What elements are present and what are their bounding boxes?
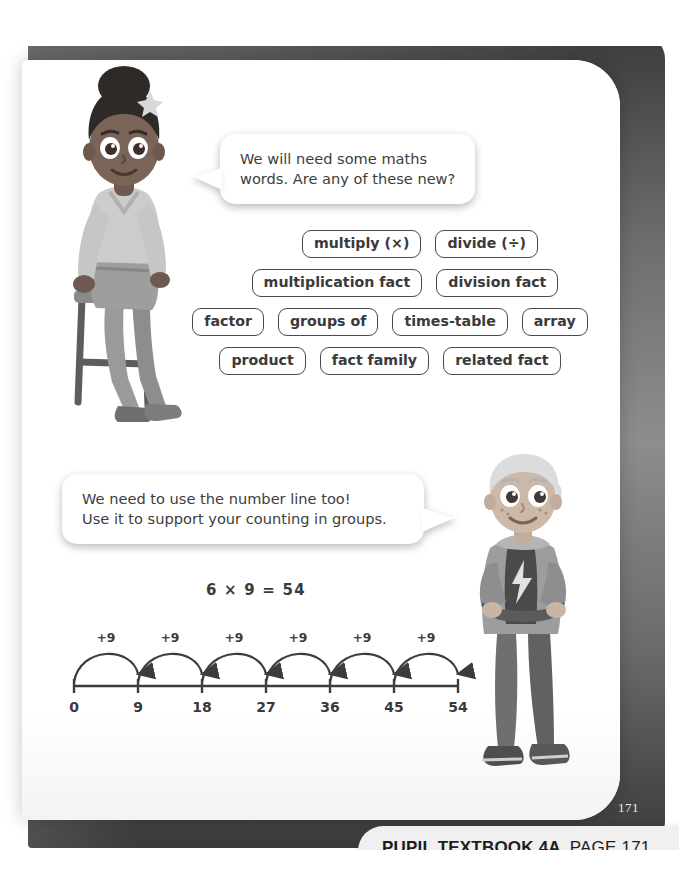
number-line-jump-arc <box>138 654 202 682</box>
vocab-chip-division-fact[interactable]: division fact <box>436 269 558 297</box>
number-line-jump-arc <box>394 654 458 682</box>
speech-bubble-tail-right <box>422 508 454 532</box>
number-line-jump-label: +9 <box>224 630 243 645</box>
vocab-chip-times-table[interactable]: times-table <box>392 308 507 336</box>
number-line-jump-arc <box>74 654 138 682</box>
vocab-chip-related-fact[interactable]: related fact <box>443 347 561 375</box>
number-line-tick-label: 9 <box>133 699 143 715</box>
vocabulary-row-2: multiplication fact division fact <box>180 269 600 297</box>
vocab-chip-groups-of[interactable]: groups of <box>278 308 378 336</box>
boy-standing-illustration <box>462 452 592 792</box>
multiplication-equation: 6 × 9 = 54 <box>206 581 306 599</box>
vocab-chip-multiplication-fact[interactable]: multiplication fact <box>252 269 423 297</box>
number-line-jump-arcs <box>74 654 458 682</box>
number-line-diagram: +9+9+9+9+9+9 091827364554 <box>56 618 476 718</box>
number-line-jump-labels: +9+9+9+9+9+9 <box>96 630 435 645</box>
number-line-jump-label: +9 <box>352 630 371 645</box>
vocabulary-row-1: multiply (×) divide (÷) <box>180 230 600 258</box>
vocabulary-row-3: factor groups of times-table array <box>180 308 600 336</box>
number-line-jump-arc <box>202 654 266 682</box>
vocab-chip-fact-family[interactable]: fact family <box>320 347 429 375</box>
number-line-jump-label: +9 <box>96 630 115 645</box>
number-line-tick-label: 45 <box>384 699 403 715</box>
speech-bubble-tail-left <box>194 168 222 190</box>
number-line-jump-label: +9 <box>288 630 307 645</box>
number-line-jump-arc <box>266 654 330 682</box>
number-line-jump-label: +9 <box>416 630 435 645</box>
girl-speech-bubble: We will need some maths words. Are any o… <box>220 134 475 204</box>
bottom-margin <box>0 850 679 890</box>
number-line-tick-label: 18 <box>192 699 211 715</box>
number-line-tick-labels: 091827364554 <box>69 699 468 715</box>
number-line-tick-label: 36 <box>320 699 339 715</box>
vocab-chip-divide[interactable]: divide (÷) <box>435 230 538 258</box>
number-line-jump-arc <box>330 654 394 682</box>
top-margin <box>0 0 679 46</box>
number-line-tick-label: 54 <box>448 699 468 715</box>
vocab-chip-array[interactable]: array <box>522 308 588 336</box>
number-line-tick-label: 0 <box>69 699 79 715</box>
girl-speech-text: We will need some maths words. Are any o… <box>220 134 475 204</box>
page-number-corner: 171 <box>618 800 639 816</box>
number-line-jump-label: +9 <box>160 630 179 645</box>
number-line-tick-label: 27 <box>256 699 275 715</box>
vocabulary-row-4: product fact family related fact <box>180 347 600 375</box>
boy-speech-text: We need to use the number line too! Use … <box>62 474 424 544</box>
vocab-chip-multiply[interactable]: multiply (×) <box>302 230 421 258</box>
vocab-chip-product[interactable]: product <box>219 347 305 375</box>
vocab-chip-factor[interactable]: factor <box>192 308 264 336</box>
vocabulary-chip-group: multiply (×) divide (÷) multiplication f… <box>180 230 600 386</box>
boy-speech-bubble: We need to use the number line too! Use … <box>62 474 424 544</box>
textbook-page-screenshot: We will need some maths words. Are any o… <box>0 0 679 890</box>
